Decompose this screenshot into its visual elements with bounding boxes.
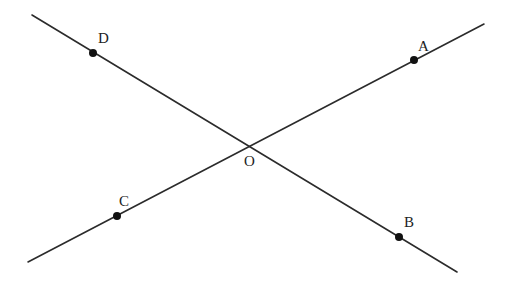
intersecting-lines-diagram: A B C D O: [0, 0, 511, 295]
point-b-dot: [395, 233, 403, 241]
label-a: A: [418, 38, 429, 54]
label-b: B: [404, 214, 414, 230]
label-d: D: [98, 30, 109, 46]
point-c-dot: [113, 212, 121, 220]
label-o: O: [244, 153, 255, 169]
point-a-dot: [410, 56, 418, 64]
point-d-dot: [89, 49, 97, 57]
label-c: C: [119, 193, 129, 209]
